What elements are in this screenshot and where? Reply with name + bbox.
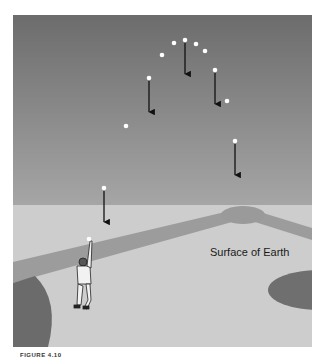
ground [13,205,312,347]
surface-of-earth-label: Surface of Earth [210,246,290,258]
figure-caption: FIGURE 4.10 [20,352,62,358]
sky [13,15,312,206]
figure-frame [13,15,312,347]
base-mound [221,206,265,224]
baseball-trajectory-diagram [13,15,312,347]
